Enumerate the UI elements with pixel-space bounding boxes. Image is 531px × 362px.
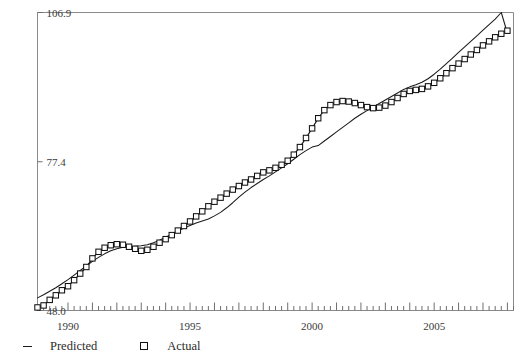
- data-point-marker: [71, 277, 76, 282]
- legend-label-actual: Actual: [167, 339, 200, 354]
- square-marker-icon: [131, 342, 157, 350]
- data-point-marker: [157, 240, 162, 245]
- data-point-marker: [285, 158, 290, 163]
- data-point-marker: [431, 80, 436, 85]
- data-point-marker: [102, 245, 107, 250]
- data-point-marker: [505, 28, 510, 33]
- data-point-marker: [456, 61, 461, 66]
- data-point-marker: [297, 144, 302, 149]
- data-point-marker: [401, 91, 406, 96]
- x-tick-label: 2000: [301, 320, 324, 331]
- data-point-marker: [279, 162, 284, 167]
- data-point-marker: [389, 99, 394, 104]
- data-point-marker: [499, 31, 504, 36]
- series-line-predicted: [38, 13, 508, 298]
- data-point-marker: [53, 293, 58, 298]
- data-point-marker: [41, 303, 46, 308]
- data-point-marker: [175, 228, 180, 233]
- data-point-marker: [486, 39, 491, 44]
- data-point-marker: [145, 247, 150, 252]
- y-axis-tick-labels: 48.077.4106.9: [47, 7, 72, 317]
- line-chart: 48.077.4106.9 1990199520002005: [0, 0, 531, 330]
- data-point-marker: [248, 177, 253, 182]
- data-point-marker: [224, 191, 229, 196]
- data-point-marker: [444, 71, 449, 76]
- data-point-marker: [303, 135, 308, 140]
- data-point-marker: [236, 183, 241, 188]
- data-point-marker: [126, 244, 131, 249]
- x-axis-ticks: [38, 303, 514, 311]
- chart-legend: Predicted Actual: [0, 330, 531, 362]
- data-point-marker: [114, 242, 119, 247]
- data-point-marker: [47, 297, 52, 302]
- data-point-marker: [193, 214, 198, 219]
- dash-icon: [14, 346, 40, 347]
- data-point-marker: [352, 100, 357, 105]
- data-point-marker: [462, 56, 467, 61]
- data-point-marker: [267, 168, 272, 173]
- data-point-marker: [181, 223, 186, 228]
- data-point-marker: [395, 95, 400, 100]
- y-tick-label: 106.9: [47, 7, 72, 19]
- data-point-marker: [480, 43, 485, 48]
- data-point-marker: [218, 195, 223, 200]
- data-point-marker: [187, 219, 192, 224]
- data-point-marker: [413, 87, 418, 92]
- data-point-marker: [151, 244, 156, 249]
- y-tick-label: 77.4: [47, 156, 67, 168]
- data-point-marker: [96, 249, 101, 254]
- data-point-marker: [438, 76, 443, 81]
- data-point-marker: [273, 165, 278, 170]
- data-point-marker: [84, 264, 89, 269]
- data-point-marker: [358, 102, 363, 107]
- data-point-marker: [254, 173, 259, 178]
- y-axis-ticks: [38, 13, 43, 311]
- axis-frame: [38, 13, 514, 311]
- data-point-marker: [492, 35, 497, 40]
- data-point-marker: [364, 104, 369, 109]
- data-point-marker: [340, 98, 345, 103]
- data-point-marker: [407, 88, 412, 93]
- data-point-marker: [78, 271, 83, 276]
- data-point-marker: [322, 107, 327, 112]
- data-point-marker: [450, 65, 455, 70]
- data-point-marker: [261, 170, 266, 175]
- data-point-marker: [425, 84, 430, 89]
- data-point-marker: [383, 103, 388, 108]
- data-point-marker: [200, 209, 205, 214]
- x-tick-label: 1995: [179, 320, 202, 331]
- x-tick-label: 2005: [423, 320, 446, 331]
- data-point-marker: [316, 116, 321, 121]
- data-point-marker: [230, 187, 235, 192]
- data-point-marker: [346, 99, 351, 104]
- data-point-marker: [108, 243, 113, 248]
- legend-label-predicted: Predicted: [50, 339, 97, 354]
- data-point-marker: [139, 248, 144, 253]
- plot-area: 48.077.4106.9 1990199520002005: [0, 0, 531, 330]
- data-point-marker: [242, 180, 247, 185]
- data-point-marker: [468, 52, 473, 57]
- x-axis-tick-labels: 1990199520002005: [57, 320, 446, 331]
- data-point-marker: [90, 256, 95, 261]
- data-point-marker: [328, 102, 333, 107]
- data-point-marker: [35, 305, 40, 310]
- data-point-marker: [163, 236, 168, 241]
- legend-item-predicted: Predicted: [14, 339, 97, 354]
- legend-item-actual: Actual: [131, 339, 200, 354]
- data-point-marker: [291, 152, 296, 157]
- data-point-marker: [212, 199, 217, 204]
- data-point-marker: [120, 242, 125, 247]
- data-point-marker: [419, 86, 424, 91]
- data-point-marker: [59, 288, 64, 293]
- data-point-marker: [309, 126, 314, 131]
- data-point-marker: [474, 47, 479, 52]
- data-point-marker: [132, 246, 137, 251]
- data-point-marker: [334, 99, 339, 104]
- data-point-marker: [169, 232, 174, 237]
- x-tick-label: 1990: [57, 320, 80, 331]
- data-point-marker: [65, 284, 70, 289]
- data-point-marker: [370, 105, 375, 110]
- chart-page: 48.077.4106.9 1990199520002005 Predicted…: [0, 0, 531, 362]
- data-point-marker: [206, 204, 211, 209]
- data-point-marker: [377, 105, 382, 110]
